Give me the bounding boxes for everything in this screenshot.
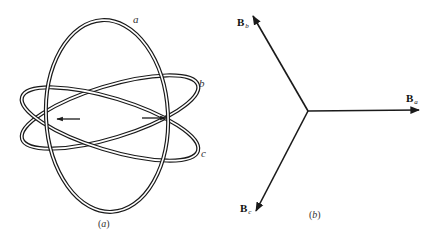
vector-Bc-label: Bc bbox=[240, 203, 251, 216]
vector-Bb-arrow-icon bbox=[253, 16, 308, 111]
panel-b-caption: (b) bbox=[309, 210, 321, 220]
diagram-canvas bbox=[0, 0, 442, 237]
coil-a bbox=[41, 17, 173, 215]
panel-a-caption: (a) bbox=[98, 219, 110, 229]
coil-a-label: a bbox=[133, 14, 139, 25]
vector-Bc-arrow-icon bbox=[256, 111, 308, 211]
figure: a b c (a) Bb Ba Bc (b) bbox=[0, 0, 442, 237]
panel-b-vectors bbox=[253, 16, 419, 211]
coil-b bbox=[14, 60, 205, 164]
coil-b-label: b bbox=[199, 78, 205, 89]
vector-Bb-label: Bb bbox=[237, 17, 249, 30]
coil-c bbox=[14, 72, 205, 176]
vector-Ba-arrow-icon bbox=[308, 110, 419, 111]
vector-Ba-label: Ba bbox=[406, 93, 418, 106]
panel-a-coils bbox=[14, 17, 205, 215]
coil-c-label: c bbox=[201, 148, 206, 159]
